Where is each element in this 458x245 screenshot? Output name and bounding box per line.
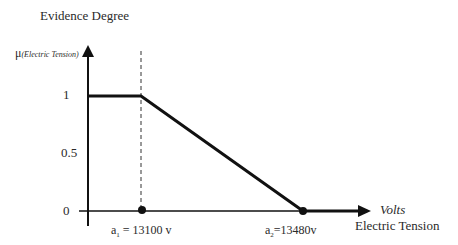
y-tick-0: 0	[63, 203, 70, 219]
a1-point	[138, 206, 146, 214]
y-tick-1: 1	[63, 87, 70, 103]
y-tick-0.5: 0.5	[61, 145, 77, 161]
a1-value: = 13100 v	[120, 223, 172, 237]
a2-point	[299, 207, 307, 215]
a2-label: a2=13480v	[265, 223, 317, 239]
y-axis-title-text: Evidence Degree	[40, 8, 129, 23]
x-axis-unit: Volts	[380, 202, 405, 218]
x-axis-title: Electric Tension	[355, 218, 439, 234]
y-axis-arrow-icon	[82, 45, 94, 57]
membership-line	[88, 96, 303, 211]
y-axis-symbol: μ(Electric Tension)	[15, 46, 79, 61]
y-axis-title: Evidence Degree	[40, 8, 100, 24]
x-axis-arrow-icon	[358, 205, 371, 217]
mu-subscript: (Electric Tension)	[21, 50, 78, 59]
a1-label: a1 = 13100 v	[111, 223, 172, 239]
a2-value: =13480v	[274, 223, 317, 237]
